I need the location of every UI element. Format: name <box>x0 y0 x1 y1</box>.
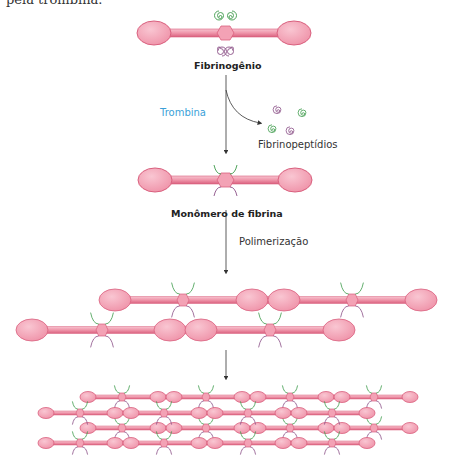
green-fibrinopeptide-icon <box>215 11 237 20</box>
fibrinogen-label: Fibrinogênio <box>194 60 262 71</box>
fibrin-network <box>38 385 418 454</box>
fibrinopeptides-label: Fibrinopeptídios <box>258 139 338 150</box>
fibrin-polymerization-diagram: pela trombina. <box>0 0 456 473</box>
fibrinogen-molecule <box>137 11 311 56</box>
thrombin-label: Trombina <box>160 107 206 118</box>
caption-fragment: pela trombina. <box>6 0 102 7</box>
cleavage-arrow <box>226 90 260 123</box>
fibrin-protofibril <box>16 283 437 348</box>
fibrin-monomer-label: Monômero de fibrina <box>171 208 283 219</box>
fibrin-monomer <box>138 165 312 196</box>
released-fibrinopeptides <box>268 106 306 135</box>
purple-fibrinopeptide-icon <box>218 47 234 56</box>
polymerization-label: Polimerização <box>239 236 308 247</box>
